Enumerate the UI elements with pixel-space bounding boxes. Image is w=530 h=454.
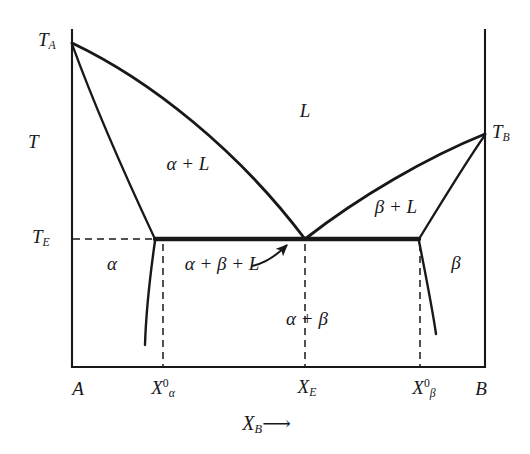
- region-label-beta: β: [451, 253, 460, 272]
- region-label-beta-plus-liquid: β + L: [375, 197, 417, 216]
- corner-label-B: B: [475, 379, 487, 398]
- region-label-alpha-plus-beta: α + β: [286, 309, 328, 328]
- tick-label-T-B: TB: [492, 122, 510, 144]
- solvus-beta-curve: [419, 241, 436, 334]
- liquidus-beta-curve: [305, 134, 485, 239]
- solidus-beta-curve: [419, 135, 485, 239]
- tick-label-x-beta-zero: X0β: [412, 378, 435, 400]
- liquidus-alpha-curve: [72, 43, 305, 239]
- region-label-alpha: α: [107, 254, 117, 273]
- axis-frame: [72, 30, 485, 367]
- tick-label-T-A: TA: [38, 30, 56, 52]
- region-label-liquid: L: [300, 101, 311, 120]
- right-arrow-icon: ⟶: [262, 412, 289, 434]
- tick-label-x-alpha-zero: X0α: [151, 378, 175, 400]
- phase-diagram-figure: T TA TB TE A B X0α XE X0β XB⟶ L α + L β …: [0, 0, 530, 454]
- region-label-alpha-plus-liquid: α + L: [167, 154, 210, 173]
- solidus-alpha-curve: [72, 44, 155, 239]
- tick-label-T-E: TE: [32, 227, 50, 249]
- region-label-alpha-beta-liquid: α + β + L: [185, 254, 260, 273]
- axis-label-composition: XB⟶: [242, 413, 289, 436]
- axis-label-temperature: T: [28, 132, 39, 151]
- solvus-alpha-curve: [145, 241, 155, 345]
- corner-label-A: A: [72, 379, 84, 398]
- tick-label-x-eutectic: XE: [298, 377, 317, 399]
- phase-boundaries: [72, 43, 485, 345]
